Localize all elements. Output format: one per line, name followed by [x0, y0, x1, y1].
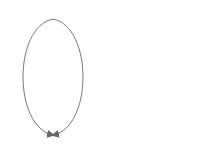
arc-bottom [23, 19, 53, 135]
diagram-1 [23, 19, 83, 135]
equivalent-fractions-figure [0, 0, 210, 158]
arc-top [53, 19, 83, 135]
